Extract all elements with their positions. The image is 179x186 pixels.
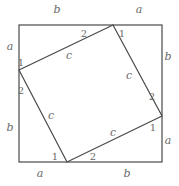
angle-label-4: 2 [149,91,155,102]
hypotenuse-label-0: c [66,49,72,62]
angle-labels: 21122112 [18,28,156,162]
angle-label-7: 2 [90,151,96,162]
side-label-3: b [6,121,13,134]
side-label-2: a [7,40,14,53]
angle-label-3: 2 [18,85,24,96]
hypotenuse-label-2: c [48,109,54,122]
inner-square [19,25,162,162]
angle-label-5: 1 [150,122,156,133]
outer-square [19,25,162,162]
angle-label-1: 1 [119,28,125,39]
hypotenuse-label-3: c [110,126,116,139]
side-label-5: a [165,134,172,147]
side-label-7: b [123,167,130,180]
angle-label-6: 1 [52,151,58,162]
hypotenuse-label-1: c [126,69,132,82]
side-label-0: b [53,3,60,16]
hypotenuse-labels: cccc [48,49,132,139]
side-label-4: b [164,50,171,63]
angle-label-2: 1 [18,57,24,68]
pythagorean-diagram: baabbaab cccc 21122112 [0,0,179,186]
side-label-6: a [37,167,44,180]
side-label-1: a [136,3,143,16]
angle-label-0: 2 [81,28,87,39]
